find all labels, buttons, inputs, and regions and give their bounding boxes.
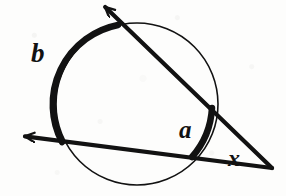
upper-secant-ray: [105, 7, 272, 168]
vertex-angle-label-x: x: [228, 146, 240, 170]
near-arc-label-a: a: [179, 117, 192, 142]
diagram-canvas: [0, 0, 286, 196]
far-arc-b: [53, 25, 118, 142]
geometry-diagram: b a x: [0, 0, 286, 196]
near-arc-a: [192, 108, 212, 157]
far-arc-label-b: b: [31, 40, 45, 67]
